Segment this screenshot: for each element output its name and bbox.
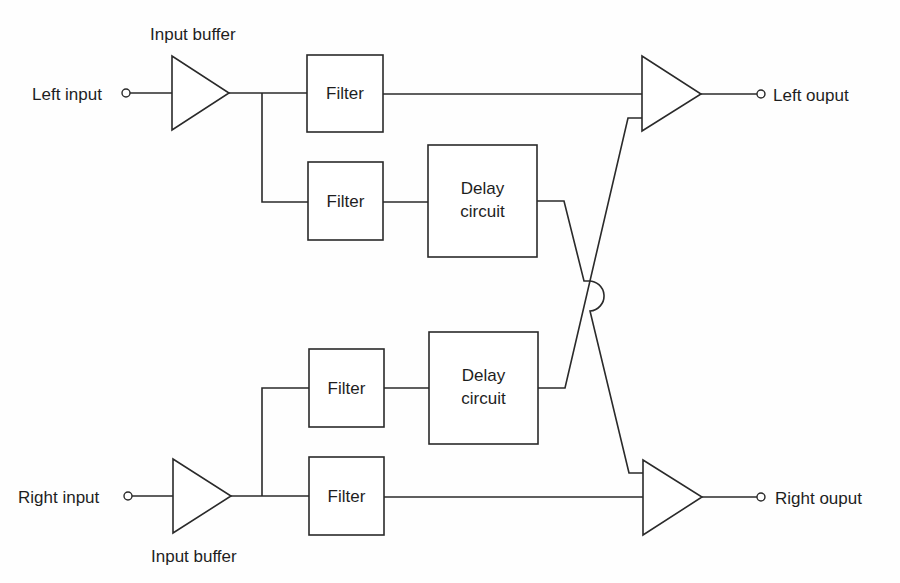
delay-circuit-1-label-line1: Delay xyxy=(461,179,505,198)
left-input-label: Left input xyxy=(32,85,102,104)
right-input-terminal-icon xyxy=(124,492,132,500)
delay-circuit-1-box xyxy=(428,145,537,257)
delay-circuit-2-label-line2: circuit xyxy=(461,389,506,408)
right-input-buffer-triangle-icon xyxy=(173,459,231,533)
delay-circuit-2-label-line1: Delay xyxy=(462,366,506,385)
delay-circuit-2: Delay circuit xyxy=(429,332,538,444)
right-output-label: Right ouput xyxy=(775,489,862,508)
left-output-terminal-icon xyxy=(757,90,765,98)
delay1-to-right-mixer-wire xyxy=(537,201,643,473)
delay-circuit-1-label-line2: circuit xyxy=(460,202,505,221)
filter-2-label: Filter xyxy=(327,192,365,211)
right-output-terminal-icon xyxy=(757,493,765,501)
filter-2: Filter xyxy=(308,162,383,240)
left-buffer-label: Input buffer xyxy=(150,25,236,44)
left-output-mixer-triangle-icon xyxy=(642,56,701,131)
right-channel: Right input Input buffer Filter Delay ci… xyxy=(18,332,862,566)
left-channel: Left input Input buffer Filter Filter De… xyxy=(32,25,849,257)
filter-3: Filter xyxy=(309,349,384,427)
crossfeed-block-diagram: Left input Input buffer Filter Filter De… xyxy=(0,0,900,583)
filter-1-label: Filter xyxy=(326,84,364,103)
right-buffer-label: Input buffer xyxy=(151,547,237,566)
filter-4: Filter xyxy=(309,457,384,535)
left-input-terminal-icon xyxy=(122,89,130,97)
crossfeed xyxy=(537,118,643,473)
right-input-label: Right input xyxy=(18,488,100,507)
delay-circuit-1: Delay circuit xyxy=(428,145,537,257)
right-branch-wire xyxy=(262,388,309,496)
left-output-label: Left ouput xyxy=(773,86,849,105)
filter-3-label: Filter xyxy=(328,379,366,398)
delay-circuit-2-box xyxy=(429,332,538,444)
filter-4-label: Filter xyxy=(328,487,366,506)
right-output-mixer-triangle-icon xyxy=(643,460,702,535)
left-branch-wire xyxy=(262,93,308,202)
delay2-to-left-mixer-wire xyxy=(538,118,642,388)
left-input-buffer-triangle-icon xyxy=(172,56,229,130)
filter-1: Filter xyxy=(307,55,383,132)
